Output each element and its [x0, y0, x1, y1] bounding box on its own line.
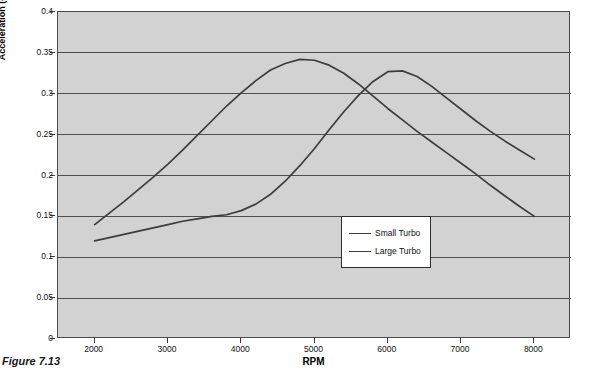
chart-legend: Small TurboLarge Turbo [341, 216, 431, 268]
x-tick-mark [167, 338, 168, 343]
x-tick-label: 8000 [503, 345, 563, 354]
x-tick-mark [387, 338, 388, 343]
legend-item-1[interactable]: Small Turbo [349, 224, 421, 242]
x-tick-label: 7000 [430, 345, 490, 354]
figure-container: Acceleration (g in 3rd gear) 00.050.10.1… [0, 0, 590, 373]
x-tick-mark [94, 338, 95, 343]
x-tick-label: 4000 [210, 345, 270, 354]
x-tick-label: 6000 [357, 345, 417, 354]
legend-line-icon [349, 233, 371, 234]
legend-item-2[interactable]: Large Turbo [349, 242, 421, 260]
x-tick-label: 2000 [64, 345, 124, 354]
x-tick-mark [240, 338, 241, 343]
x-tick-label: 5000 [284, 345, 344, 354]
legend-line-icon [349, 251, 371, 252]
figure-caption: Figure 7.13 [2, 355, 60, 367]
x-axis-title: RPM [57, 356, 570, 367]
legend-label: Small Turbo [375, 228, 420, 238]
x-tick-mark [533, 338, 534, 343]
legend-label: Large Turbo [375, 246, 421, 256]
x-axis-ticks: 2000300040005000600070008000 [0, 0, 590, 373]
x-tick-mark [460, 338, 461, 343]
x-tick-mark [314, 338, 315, 343]
x-tick-label: 3000 [137, 345, 197, 354]
